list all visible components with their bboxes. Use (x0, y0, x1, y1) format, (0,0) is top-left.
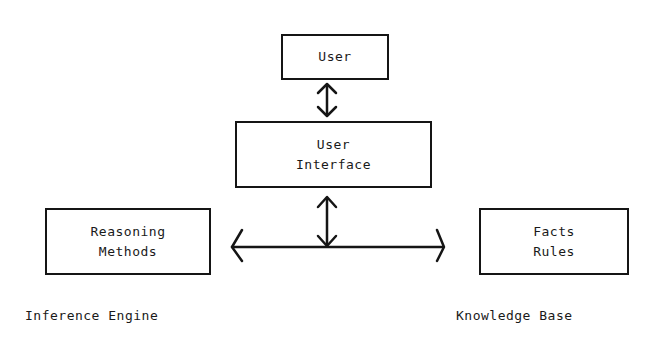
user-interface-line-2: Interface (296, 155, 371, 175)
inference-engine-caption: Inference Engine (25, 308, 158, 323)
knowledge-base-node: Facts Rules (479, 208, 629, 275)
knowledge-base-line-2: Rules (533, 242, 575, 262)
user-interface-line-1: User (317, 135, 350, 155)
user-interface-node: User Interface (235, 121, 432, 188)
inference-engine-line-1: Reasoning (91, 222, 166, 242)
user-ui-double-arrow-icon (318, 84, 336, 116)
inference-engine-node: Reasoning Methods (45, 208, 211, 275)
knowledge-base-caption: Knowledge Base (456, 308, 573, 323)
knowledge-base-line-1: Facts (533, 222, 575, 242)
user-node: User (281, 34, 389, 80)
user-node-label: User (318, 47, 351, 67)
inference-engine-line-2: Methods (99, 242, 157, 262)
ui-bus-double-arrow-icon (318, 197, 336, 246)
engine-knowledge-double-arrow-icon (232, 230, 444, 261)
